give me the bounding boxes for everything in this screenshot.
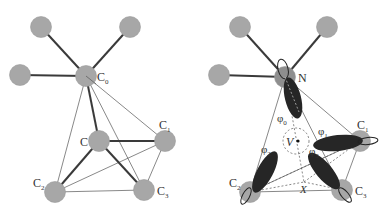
atom-h-left <box>10 65 31 86</box>
atom-c3 <box>134 180 155 201</box>
atom-h-top-right <box>317 17 338 38</box>
molecular-diagram: C0 C C1 C2 C3 <box>0 0 389 210</box>
right-panel: N C1 C2 C3 V X φ0 φ1 φ2 φ3 <box>209 17 379 206</box>
bonds <box>20 27 165 192</box>
atom-c1 <box>155 131 176 152</box>
atom-h-top-left <box>230 17 251 38</box>
atom-c2 <box>45 182 66 203</box>
label-phi1: φ1 <box>318 125 328 140</box>
label-phi2: φ2 <box>261 143 271 158</box>
atom-h-left <box>209 65 230 86</box>
vacancy-center-dot <box>296 139 299 142</box>
atom-c <box>89 131 110 152</box>
atom-h-top-right <box>120 17 141 38</box>
left-panel: C0 C C1 C2 C3 <box>10 17 176 203</box>
label-c2: C2 <box>229 176 241 192</box>
atom-h-top-left <box>31 17 52 38</box>
label-v: V <box>286 135 295 149</box>
label-c2: C2 <box>33 176 45 192</box>
label-x: X <box>299 183 308 195</box>
label-c1: C1 <box>159 118 171 134</box>
tetrahedron-edges <box>55 76 165 192</box>
label-c: C <box>80 135 88 149</box>
label-c1: C1 <box>357 118 369 134</box>
label-n: N <box>298 71 307 85</box>
label-c3: C3 <box>355 184 367 200</box>
label-c3: C3 <box>157 184 169 200</box>
label-c0: C0 <box>97 70 109 86</box>
label-phi0: φ0 <box>277 112 287 127</box>
